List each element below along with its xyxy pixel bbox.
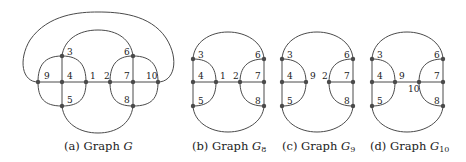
caption-prefix: (c) Graph	[282, 139, 341, 153]
node-label-3: 3	[198, 50, 204, 60]
caption-graph-g8: (b) Graph G8	[192, 139, 266, 154]
caption-subscript: 10	[439, 145, 449, 154]
node-label-1: 1	[220, 71, 226, 81]
edge-3-1-arc	[193, 59, 216, 82]
node-7	[441, 80, 445, 84]
panel-graph-g: 9 4 1 2 7 10 3 5 6 8	[23, 12, 174, 133]
node-label-4: 4	[67, 71, 73, 81]
edge-5-8-arc	[193, 106, 264, 132]
node-9	[36, 80, 40, 84]
node-4	[60, 80, 64, 84]
caption-symbol: G	[341, 139, 350, 153]
node-label-9: 9	[44, 71, 50, 81]
graph-figure: 9 4 1 2 7 10 3 5 6 8	[0, 0, 466, 162]
node-4	[280, 80, 284, 84]
caption-symbol: G	[252, 139, 261, 153]
node-5	[191, 104, 195, 108]
edge-5-8-arc	[282, 106, 353, 132]
edge-1-5-arc	[62, 82, 86, 106]
caption-symbol: G	[430, 139, 439, 153]
node-5	[60, 104, 64, 108]
edge-3-9-arc	[372, 59, 395, 82]
node-6	[262, 57, 266, 61]
node-3	[370, 57, 374, 61]
caption-prefix: (b) Graph	[192, 139, 252, 153]
node-label-4: 4	[377, 71, 383, 81]
panel-graph-g10: 3 4 5 9 10 6 7 8	[370, 32, 445, 132]
node-label-7: 7	[255, 71, 261, 81]
node-label-2: 2	[322, 71, 328, 81]
edge-5-8-arc	[372, 106, 443, 132]
node-label-6: 6	[255, 50, 261, 60]
node-label-5: 5	[67, 95, 73, 105]
node-7	[262, 80, 266, 84]
node-label-4: 4	[287, 71, 293, 81]
node-7	[131, 80, 135, 84]
edge-5-8-arc	[62, 106, 133, 133]
node-8	[351, 104, 355, 108]
caption-prefix: (d) Graph	[370, 139, 430, 153]
node-label-8: 8	[344, 96, 350, 106]
node-label-9: 9	[310, 71, 316, 81]
node-label-5: 5	[198, 96, 204, 106]
node-label-8: 8	[124, 95, 130, 105]
node-7	[351, 80, 355, 84]
node-3	[60, 54, 64, 58]
caption-subscript: 9	[350, 145, 355, 154]
node-label-8: 8	[434, 96, 440, 106]
node-label-7: 7	[124, 71, 130, 81]
caption-prefix: (a) Graph	[64, 139, 123, 153]
node-label-5: 5	[377, 96, 383, 106]
node-5	[280, 104, 284, 108]
node-8	[131, 104, 135, 108]
edge-3-9-arc	[282, 59, 306, 82]
node-label-6: 6	[124, 47, 130, 57]
caption-graph-g: (a) Graph G	[64, 139, 133, 153]
node-label-7: 7	[434, 71, 440, 81]
edge-3-9-arc	[38, 56, 62, 82]
graph-diagrams-svg: 9 4 1 2 7 10 3 5 6 8	[0, 0, 466, 162]
node-label-5: 5	[287, 96, 293, 106]
edge-3-1-arc	[62, 56, 86, 82]
node-6	[441, 57, 445, 61]
node-1	[84, 80, 88, 84]
node-8	[441, 104, 445, 108]
node-6	[131, 54, 135, 58]
panel-graph-g8: 3 4 5 1 2 6 7 8	[191, 32, 266, 132]
node-label-10: 10	[146, 71, 158, 81]
node-label-9: 9	[399, 71, 405, 81]
node-1	[214, 80, 218, 84]
node-label-7: 7	[344, 71, 350, 81]
node-9	[393, 80, 397, 84]
node-4	[370, 80, 374, 84]
node-label-1: 1	[90, 71, 96, 81]
node-3	[191, 57, 195, 61]
panel-graph-g9: 3 4 5 9 2 6 7 8	[280, 32, 355, 132]
node-label-6: 6	[344, 50, 350, 60]
node-5	[370, 104, 374, 108]
node-label-8: 8	[255, 96, 261, 106]
node-label-2: 2	[104, 71, 110, 81]
node-8	[262, 104, 266, 108]
caption-graph-g10: (d) Graph G10	[370, 139, 449, 154]
edge-10-8-arc	[133, 82, 158, 106]
node-label-3: 3	[287, 50, 293, 60]
caption-symbol: G	[123, 139, 132, 153]
node-4	[191, 80, 195, 84]
node-label-10: 10	[408, 84, 420, 94]
node-label-2: 2	[233, 71, 239, 81]
node-6	[351, 57, 355, 61]
edge-1-5-arc	[193, 82, 216, 106]
edge-9-5-arc	[372, 82, 395, 106]
edge-9-5-arc	[38, 82, 62, 106]
edge-9-5-arc	[282, 82, 306, 106]
caption-subscript: 8	[261, 145, 266, 154]
node-9	[304, 80, 308, 84]
node-label-3: 3	[377, 50, 383, 60]
node-label-3: 3	[67, 47, 73, 57]
node-label-6: 6	[434, 50, 440, 60]
node-label-4: 4	[198, 71, 204, 81]
node-3	[280, 57, 284, 61]
caption-graph-g9: (c) Graph G9	[282, 139, 355, 154]
